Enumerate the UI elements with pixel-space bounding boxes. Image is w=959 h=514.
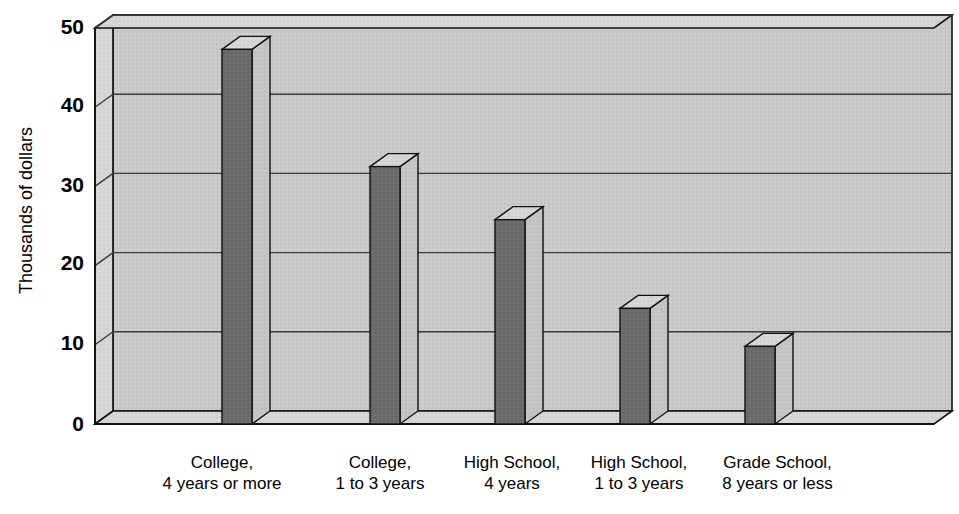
x-category-label: College, 1 to 3 years: [300, 452, 460, 495]
bar-front-face: [495, 220, 525, 424]
plot-top-face: [95, 15, 952, 28]
bar-side-face: [252, 36, 270, 424]
bar-front-face: [370, 167, 400, 424]
bar-side-face: [400, 154, 418, 424]
x-category-line1: College,: [137, 452, 307, 473]
bar[interactable]: [495, 207, 543, 424]
bar-side-face: [650, 295, 668, 424]
bar[interactable]: [745, 333, 793, 424]
x-axis-category-labels: College, 4 years or more College, 1 to 3…: [0, 452, 959, 510]
bar-front-face: [222, 49, 252, 424]
bar[interactable]: [620, 295, 668, 424]
x-category-line1: College,: [300, 452, 460, 473]
x-category-line1: Grade School,: [690, 452, 865, 473]
bar-side-face: [525, 207, 543, 424]
plot-left-wall: [95, 15, 113, 424]
x-category-label: Grade School, 8 years or less: [690, 452, 865, 495]
bar-front-face: [745, 346, 775, 424]
x-category-line2: 4 years or more: [137, 473, 307, 494]
x-category-line2: 8 years or less: [690, 473, 865, 494]
plot-area: [0, 0, 959, 514]
bar-side-face: [775, 333, 793, 424]
bar[interactable]: [222, 36, 270, 424]
bar[interactable]: [370, 154, 418, 424]
x-category-line2: 1 to 3 years: [300, 473, 460, 494]
x-category-label: College, 4 years or more: [137, 452, 307, 495]
bar-chart: Thousands of dollars 50 40 30 20 10 0: [0, 0, 959, 514]
bar-front-face: [620, 308, 650, 424]
